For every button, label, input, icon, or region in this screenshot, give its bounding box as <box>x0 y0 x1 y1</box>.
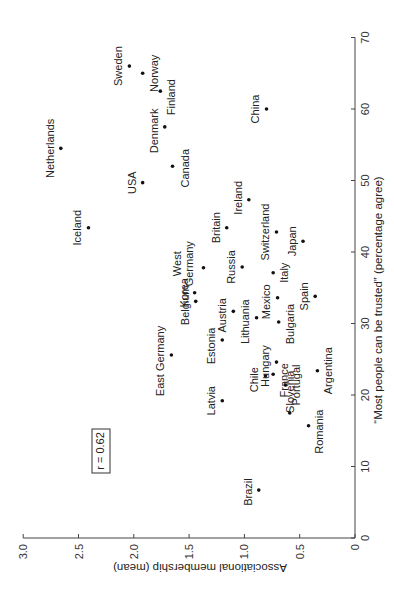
point-marker <box>141 181 145 185</box>
data-point: Switzerland <box>259 204 278 261</box>
data-point: China <box>249 94 268 124</box>
data-point: Latvia <box>205 385 224 415</box>
data-points: SwedenNorwayFinlandChinaDenmarkNetherlan… <box>44 46 335 506</box>
trust-tick-label: 50 <box>359 174 371 186</box>
point-label: Bulgaria <box>284 303 296 344</box>
point-label: Slovenia <box>284 370 296 413</box>
point-label: USA <box>126 171 138 194</box>
point-marker <box>128 64 132 68</box>
point-label: Switzerland <box>259 204 271 261</box>
membership-axis-title: Associational membership (mean) <box>113 562 287 574</box>
membership-tick-label: 2.0 <box>128 544 140 559</box>
data-point: Romania <box>307 409 326 454</box>
data-point: Finland <box>159 79 178 115</box>
point-label: Netherlands <box>44 118 56 178</box>
data-point: Mexico <box>260 284 279 319</box>
data-point: Netherlands <box>44 118 63 178</box>
point-marker <box>225 226 229 230</box>
data-point: Austria <box>216 297 235 332</box>
trust-tick-label: 30 <box>359 317 371 329</box>
trust-tick-label: 40 <box>359 246 371 258</box>
data-point: Sweden <box>112 46 131 86</box>
point-marker <box>193 291 197 295</box>
data-point: Russia <box>225 249 244 284</box>
trust-tick-label: 0 <box>359 535 371 541</box>
data-point: Britain <box>210 212 229 243</box>
point-label: Russia <box>225 249 237 284</box>
point-marker <box>220 338 224 342</box>
point-marker <box>232 310 236 314</box>
point-marker <box>257 488 261 492</box>
membership-tick-label: 2.5 <box>73 544 85 559</box>
data-point: East Germany <box>154 325 173 396</box>
membership-tick-label: 1.5 <box>183 544 195 559</box>
point-label: East Germany <box>154 325 166 396</box>
point-label: Chile <box>248 367 260 392</box>
trust-axis-title: “Most people can be trusted” (percentage… <box>372 176 384 424</box>
point-label: Mexico <box>260 284 272 319</box>
point-label: Sweden <box>112 46 124 86</box>
data-point: Brazil <box>242 478 261 506</box>
membership-tick-label: 3.0 <box>17 544 29 559</box>
point-marker <box>59 147 63 151</box>
point-label: Hungary <box>259 345 271 387</box>
point-label: Argentina <box>322 346 334 394</box>
data-point: Slovenia <box>284 370 296 415</box>
point-label: Estonia <box>205 327 217 365</box>
data-point: Canada <box>171 148 192 187</box>
point-label: Austria <box>216 297 228 332</box>
point-marker <box>220 399 224 403</box>
point-marker <box>247 198 251 202</box>
point-marker <box>240 265 244 269</box>
membership-tick-label: 0 <box>349 544 361 550</box>
point-marker <box>159 89 163 93</box>
point-label: Romania <box>313 409 325 454</box>
point-label: Finland <box>165 79 177 115</box>
data-point: Argentina <box>316 346 335 394</box>
data-point: Hungary <box>259 345 278 387</box>
trust-tick-label: 10 <box>359 460 371 472</box>
point-label: Iceland <box>71 210 83 245</box>
axes: 00.51.01.52.02.53.0010203040506070Associ… <box>17 31 384 574</box>
point-label: Lithuania <box>239 299 251 345</box>
point-label: Norway <box>148 54 160 92</box>
data-point: Lithuania <box>239 299 258 345</box>
membership-tick-label: 1.0 <box>238 544 250 559</box>
point-marker <box>202 266 206 270</box>
trust-tick-label: 20 <box>359 389 371 401</box>
point-marker <box>276 296 280 300</box>
point-marker <box>194 300 198 304</box>
point-marker <box>271 271 275 275</box>
point-label: Japan <box>286 226 298 256</box>
data-point: Norway <box>141 54 160 92</box>
trust-tick-label: 70 <box>359 31 371 43</box>
point-marker <box>313 295 317 299</box>
data-point: Japan <box>286 226 305 256</box>
data-point: Spain <box>298 282 317 310</box>
point-label: China <box>249 94 261 124</box>
point-label: Ireland <box>232 181 244 215</box>
point-marker <box>301 239 305 243</box>
point-marker <box>163 125 167 129</box>
data-point: Denmark <box>148 108 167 153</box>
correlation-annotation: r = 0.62 <box>92 429 110 473</box>
membership-tick-label: 0.5 <box>294 544 306 559</box>
correlation-label: r = 0.62 <box>94 432 106 470</box>
point-label: Belgium <box>179 285 191 325</box>
point-label: West <box>171 251 183 276</box>
point-marker <box>255 316 259 320</box>
point-label: Italy <box>278 262 290 283</box>
data-point: Ireland <box>232 181 251 215</box>
point-marker <box>265 107 269 111</box>
point-label: Latvia <box>205 385 217 415</box>
point-marker <box>307 424 311 428</box>
point-marker <box>141 71 145 75</box>
data-point: Iceland <box>71 210 90 245</box>
point-label: Britain <box>210 212 222 243</box>
data-point: Italy <box>271 262 290 283</box>
point-marker <box>316 369 320 373</box>
point-label: Spain <box>298 282 310 310</box>
point-marker <box>171 164 175 168</box>
point-marker <box>277 320 281 324</box>
data-point: Bulgaria <box>277 303 296 344</box>
